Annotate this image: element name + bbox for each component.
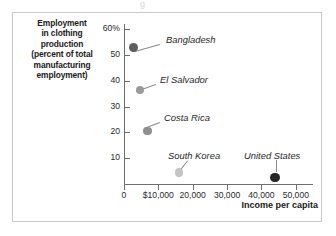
y-axis-title-line: manufacturing xyxy=(14,60,110,70)
y-tick-label: 60% xyxy=(86,23,120,33)
data-label-bangladesh: Bangladesh xyxy=(166,34,216,45)
y-axis-title-line: production xyxy=(14,39,110,49)
chart-figure: g Employmentin clothingproduction(percen… xyxy=(0,0,336,236)
x-axis-title: Income per capita xyxy=(196,200,318,210)
y-tick-mark xyxy=(125,55,130,56)
y-tick-label: 20 xyxy=(86,126,120,136)
label-leader-line xyxy=(276,160,277,172)
y-tick-mark xyxy=(125,29,130,30)
y-tick-mark xyxy=(125,132,130,133)
y-tick-mark xyxy=(125,81,130,82)
y-tick-mark xyxy=(125,158,130,159)
data-point-el-salvador[interactable] xyxy=(136,86,144,94)
y-tick-mark xyxy=(125,107,130,108)
y-axis-line xyxy=(124,24,125,185)
data-point-costa-rica[interactable] xyxy=(143,127,151,135)
clipped-title-sliver: g xyxy=(140,0,170,9)
x-tick-label: 50,000 xyxy=(273,190,319,200)
data-point-south-korea[interactable] xyxy=(175,168,184,177)
data-label-united-states: United States xyxy=(244,150,300,161)
data-label-costa-rica: Costa Rica xyxy=(164,112,210,123)
data-label-el-salvador: El Salvador xyxy=(160,74,208,85)
y-tick-label: 40 xyxy=(86,75,120,85)
y-tick-label: 50 xyxy=(86,49,120,59)
data-label-south-korea: South Korea xyxy=(168,150,220,161)
data-point-bangladesh[interactable] xyxy=(129,43,138,52)
y-tick-label: 30 xyxy=(86,101,120,111)
x-axis-line xyxy=(124,184,313,185)
y-tick-label: 10 xyxy=(86,152,120,162)
